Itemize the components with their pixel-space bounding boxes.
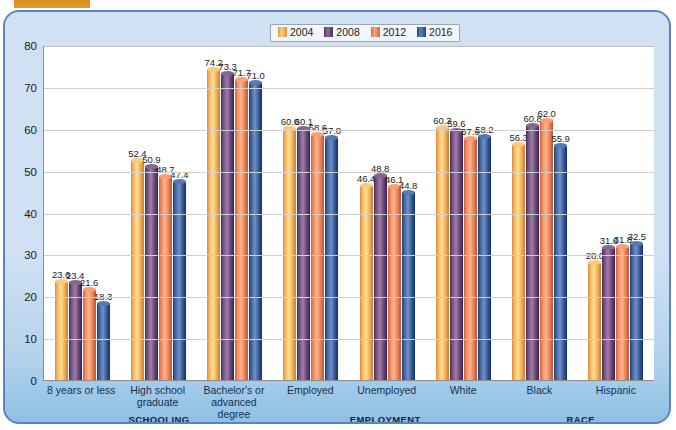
bar: 47.4 bbox=[173, 182, 186, 380]
bar: 73.3 bbox=[221, 73, 234, 380]
y-axis-tick-label: 50 bbox=[11, 166, 37, 178]
bar: 60.0 bbox=[283, 129, 296, 380]
legend-swatch-icon bbox=[417, 27, 426, 37]
bar: 57.8 bbox=[325, 138, 338, 380]
gridline bbox=[44, 255, 654, 256]
legend-swatch-icon bbox=[278, 27, 287, 37]
bar: 52.4 bbox=[131, 161, 144, 380]
bar: 55.9 bbox=[554, 146, 567, 380]
legend-swatch-icon bbox=[324, 27, 333, 37]
gridline bbox=[44, 172, 654, 173]
bar-value-label: 46.4 bbox=[357, 174, 376, 184]
bar: 48.7 bbox=[159, 176, 172, 380]
bar: 50.9 bbox=[145, 167, 158, 380]
bar: 21.6 bbox=[83, 290, 96, 380]
y-axis-tick-label: 30 bbox=[11, 249, 37, 261]
bar-value-label: 57.8 bbox=[323, 126, 342, 136]
section-label: EMPLOYMENT bbox=[350, 414, 421, 424]
gridline bbox=[44, 339, 654, 340]
section-labels: SCHOOLINGEMPLOYMENTRACE bbox=[43, 414, 654, 424]
bar: 46.4 bbox=[360, 186, 373, 380]
legend-label: 2012 bbox=[383, 27, 406, 38]
legend-item-2016: 2016 bbox=[417, 27, 452, 38]
bar: 23.6 bbox=[55, 281, 68, 380]
bar-value-label: 44.8 bbox=[399, 181, 418, 191]
legend-label: 2016 bbox=[429, 27, 452, 38]
legend-item-2004: 2004 bbox=[278, 27, 313, 38]
bar: 48.8 bbox=[374, 176, 387, 380]
section-label: SCHOOLING bbox=[129, 414, 190, 424]
bar-value-label: 62.0 bbox=[537, 109, 556, 119]
bar: 18.3 bbox=[97, 303, 110, 380]
legend-swatch-icon bbox=[371, 27, 380, 37]
bar: 60.3 bbox=[436, 128, 449, 381]
y-axis-tick-label: 40 bbox=[11, 208, 37, 220]
plot-area: 23.623.421.618.352.450.948.747.474.273.3… bbox=[43, 46, 654, 381]
bar: 62.0 bbox=[540, 120, 553, 380]
y-axis-tick-label: 10 bbox=[11, 333, 37, 345]
y-axis-tick-label: 70 bbox=[11, 82, 37, 94]
bar: 71.0 bbox=[249, 83, 262, 380]
chart-panel: 2004200820122016 01020304050607080 23.62… bbox=[3, 10, 671, 424]
bar: 32.5 bbox=[630, 244, 643, 380]
bar: 57.6 bbox=[464, 139, 477, 380]
bar: 31.6 bbox=[602, 248, 615, 380]
gridline bbox=[44, 214, 654, 215]
bar-value-label: 32.5 bbox=[628, 232, 647, 242]
bar: 56.3 bbox=[512, 144, 525, 380]
y-axis-tick-label: 20 bbox=[11, 291, 37, 303]
bar: 31.8 bbox=[616, 247, 629, 380]
gridline bbox=[44, 130, 654, 131]
y-axis-tick-label: 80 bbox=[11, 40, 37, 52]
bar: 44.8 bbox=[402, 192, 415, 380]
bar: 60.1 bbox=[297, 128, 310, 380]
gridline bbox=[44, 297, 654, 298]
gridline bbox=[44, 88, 654, 89]
bar: 71.7 bbox=[235, 80, 248, 380]
bar: 74.2 bbox=[207, 69, 220, 380]
gridline bbox=[44, 46, 654, 47]
bar-value-label: 55.9 bbox=[551, 134, 570, 144]
bar: 58.2 bbox=[478, 136, 491, 380]
bar: 46.1 bbox=[388, 187, 401, 380]
bar-value-label: 21.6 bbox=[80, 278, 99, 288]
chart-legend: 2004200820122016 bbox=[270, 24, 460, 42]
orange-tab-strip bbox=[14, 0, 90, 8]
bar-value-label: 71.0 bbox=[246, 71, 265, 81]
legend-label: 2008 bbox=[336, 27, 359, 38]
legend-label: 2004 bbox=[290, 27, 313, 38]
bar: 28.0 bbox=[588, 263, 601, 380]
y-axis-tick-label: 0 bbox=[11, 375, 37, 387]
bar-value-label: 56.3 bbox=[509, 133, 528, 143]
section-label: RACE bbox=[566, 414, 595, 424]
bar: 60.8 bbox=[526, 125, 539, 380]
chart-screenshot: 2004200820122016 01020304050607080 23.62… bbox=[0, 0, 676, 430]
plot-wrapper: 23.623.421.618.352.450.948.747.474.273.3… bbox=[43, 46, 654, 381]
legend-item-2008: 2008 bbox=[324, 27, 359, 38]
y-axis-tick-label: 60 bbox=[11, 124, 37, 136]
legend-item-2012: 2012 bbox=[371, 27, 406, 38]
